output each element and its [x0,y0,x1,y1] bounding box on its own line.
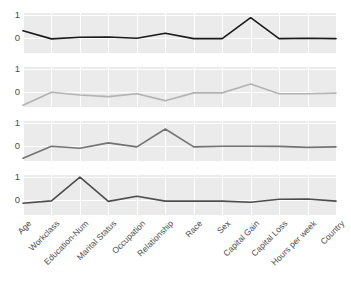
y-tick-label: 1 [0,118,20,128]
series-line-2 [23,67,336,107]
series-line-1 [23,13,336,53]
data-line [23,84,336,105]
gridline-vertical [336,13,337,53]
data-line [23,177,336,203]
y-axis-labels-3: 01 [0,121,20,161]
chart-panel-1 [23,13,336,53]
y-tick-label: 1 [0,64,20,74]
x-tick-label: Age [16,219,33,236]
chart-panel-3 [23,121,336,161]
data-line [23,18,336,39]
series-line-4 [23,175,336,215]
x-tick-label: Race [184,219,204,239]
gridline-vertical [336,67,337,107]
y-tick-label: 1 [0,10,20,20]
y-tick-label: 0 [0,141,20,151]
y-tick-label: 1 [0,172,20,182]
series-line-3 [23,121,336,161]
x-tick-label: Sex [216,219,232,235]
y-tick-label: 0 [0,195,20,205]
gridline-vertical [336,121,337,161]
data-line [23,129,336,158]
chart-root: 01010101 AgeWorkclassEducation-NumMarita… [0,0,351,282]
x-tick-label: Country [319,219,346,246]
gridline-vertical [336,175,337,215]
y-tick-label: 0 [0,87,20,97]
chart-panel-4 [23,175,336,215]
y-tick-label: 0 [0,33,20,43]
x-axis-labels: AgeWorkclassEducation-NumMarital StatusO… [0,219,351,282]
y-axis-labels-4: 01 [0,175,20,215]
y-axis-labels-1: 01 [0,13,20,53]
chart-panel-2 [23,67,336,107]
y-axis-labels-2: 01 [0,67,20,107]
